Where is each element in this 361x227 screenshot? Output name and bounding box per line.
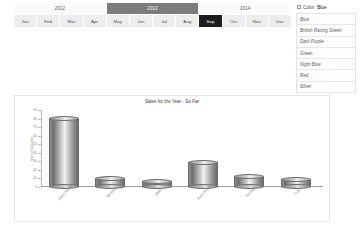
month-cell-mar[interactable]: Mar — [60, 15, 83, 27]
x-tick-label: TVR — [293, 188, 301, 196]
bar-tvr[interactable] — [281, 179, 311, 186]
date-slicer: 201220132014 JanFebMarAprMayJunJulAugSep… — [14, 3, 291, 27]
bar-rolls-royce[interactable] — [188, 162, 218, 186]
y-tick-label: 20 — [33, 168, 37, 172]
month-cell-dec[interactable]: Dec — [269, 15, 291, 27]
y-tick-label: 90 — [33, 108, 37, 112]
chart-panel: Sales for the Year - So Far Sum of Quant… — [14, 95, 330, 222]
color-option-british-racing-green[interactable]: British Racing Green — [297, 25, 355, 36]
y-tick-label: 10 — [33, 176, 37, 180]
color-option-silver[interactable]: Silver — [297, 82, 355, 93]
color-option-red[interactable]: Red — [297, 70, 355, 81]
bar-slot: Aston Martin — [41, 110, 87, 186]
y-tick-label: 60 — [33, 134, 37, 138]
color-option-green[interactable]: Green — [297, 48, 355, 59]
bar-slot: TVR — [273, 110, 319, 186]
color-slicer-header: Color: Blue — [296, 3, 356, 11]
y-tick — [38, 187, 41, 188]
color-option-list[interactable]: BlueBritish Racing GreenDark PurpleGreen… — [296, 13, 356, 93]
bar-bentley[interactable] — [95, 178, 125, 186]
bar-slot: AMG — [134, 110, 180, 186]
bar-slot: Rolls Royce — [180, 110, 226, 186]
color-slicer-label: Color: — [303, 5, 315, 10]
month-slicer-row[interactable]: JanFebMarAprMayJunJulAugSepOctNovDec — [14, 15, 291, 27]
bar-aston-martin[interactable] — [49, 118, 79, 186]
month-cell-nov[interactable]: Nov — [246, 15, 269, 27]
plot-area: Sum of Quantity 0102030405060708090 Asto… — [41, 110, 319, 187]
month-cell-jul[interactable]: Jul — [153, 15, 176, 27]
bar-slot: Triumph — [226, 110, 272, 186]
y-tick-label: 50 — [33, 142, 37, 146]
color-option-night-blue[interactable]: Night Blue — [297, 59, 355, 70]
month-cell-oct[interactable]: Oct — [223, 15, 246, 27]
y-tick-label: 30 — [33, 159, 37, 163]
month-cell-apr[interactable]: Apr — [84, 15, 107, 27]
bar-amg[interactable] — [142, 181, 172, 186]
x-tick-label: AMG — [154, 188, 162, 197]
year-cell-2014[interactable]: 2014 — [199, 3, 291, 14]
chart-title: Sales for the Year - So Far — [15, 99, 329, 104]
bar-slot: Bentley — [87, 110, 133, 186]
month-cell-jun[interactable]: Jun — [130, 15, 153, 27]
bar-series: Aston MartinBentleyAMGRolls RoyceTriumph… — [41, 110, 319, 186]
month-cell-jan[interactable]: Jan — [14, 15, 37, 27]
year-cell-2013[interactable]: 2013 — [107, 3, 200, 14]
month-cell-sep[interactable]: Sep — [199, 15, 222, 27]
filter-icon[interactable] — [297, 5, 301, 9]
color-option-dark-purple[interactable]: Dark Purple — [297, 37, 355, 48]
y-axis-label: Sum of Quantity — [30, 136, 34, 160]
dashboard-page: 201220132014 JanFebMarAprMayJunJulAugSep… — [0, 0, 361, 227]
month-cell-feb[interactable]: Feb — [37, 15, 60, 27]
color-option-blue[interactable]: Blue — [297, 14, 355, 25]
color-slicer-value: Blue — [317, 5, 326, 10]
month-cell-may[interactable]: May — [107, 15, 130, 27]
color-slicer: Color: Blue BlueBritish Racing GreenDark… — [296, 3, 356, 93]
year-slicer-row[interactable]: 201220132014 — [14, 3, 291, 14]
year-cell-2012[interactable]: 2012 — [14, 3, 107, 14]
month-cell-aug[interactable]: Aug — [176, 15, 199, 27]
bar-triumph[interactable] — [234, 176, 264, 186]
y-tick-label: 40 — [33, 151, 37, 155]
y-tick-label: 70 — [33, 125, 37, 129]
y-tick-label: 0 — [35, 185, 37, 189]
y-tick-label: 80 — [33, 117, 37, 121]
